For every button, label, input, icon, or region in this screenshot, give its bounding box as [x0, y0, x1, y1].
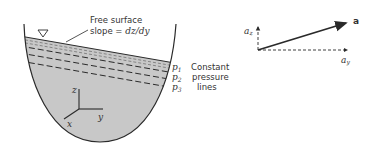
- caption-line2: pressure: [192, 72, 229, 82]
- axis-z-label: z: [71, 85, 77, 95]
- vector-a-label: a: [353, 16, 359, 26]
- annotation-leader: [66, 30, 88, 42]
- caption-line1: Constant: [191, 62, 230, 72]
- axis-y-label: y: [97, 112, 104, 122]
- axis-x-label: x: [67, 119, 72, 129]
- caption-line3: lines: [197, 82, 217, 92]
- free-surface-marker-icon: [38, 30, 48, 37]
- ay-label: ay: [341, 55, 350, 66]
- annotation-line1: Free surface: [90, 15, 142, 25]
- acceleration-vector-diagram: a az ay: [244, 16, 359, 66]
- fluid-region: [20, 36, 180, 150]
- a-vector-arrow: [258, 23, 346, 50]
- diagram-canvas: Free surface slope = dz/dy p1 p2 p3 Cons…: [0, 0, 366, 150]
- az-label: az: [244, 26, 253, 36]
- label-p3: p3: [172, 82, 182, 93]
- annotation-line2: slope = dz/dy: [90, 26, 150, 36]
